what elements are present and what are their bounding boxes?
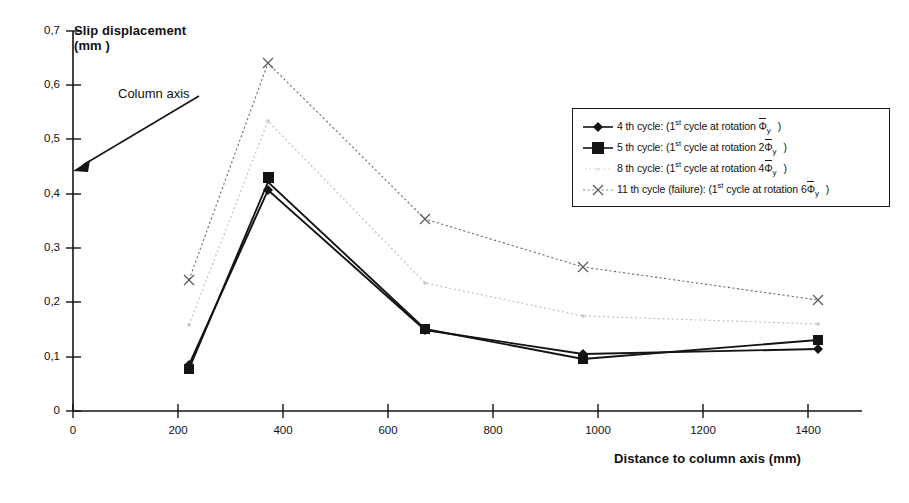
ytick-label-0.4: 0,4: [26, 187, 60, 199]
column-axis-annotation-label: Column axis: [118, 86, 190, 101]
chart-plot-area: [0, 0, 909, 503]
legend-item-11th-cycle[interactable]: 11 th cycle (failure): (1st cycle at rot…: [581, 179, 883, 200]
xtick-label-1000: 1000: [578, 424, 618, 436]
phi-glyph: Φ: [758, 120, 766, 132]
legend-label-11th-cycle: 11 th cycle (failure): (1st cycle at rot…: [617, 181, 829, 198]
xtick-label-600: 600: [368, 424, 408, 436]
ytick-label-0.7: 0,7: [26, 24, 60, 36]
y-axis-title-line2: (mm ): [74, 38, 110, 53]
chart-legend: 4 th cycle: (1st cycle at rotation Φy) 5…: [572, 108, 890, 207]
phi-subscript: y: [772, 168, 776, 177]
ytick-label-0.5: 0,5: [26, 132, 60, 144]
legend-label-main: 11 th cycle (failure): (1: [617, 183, 718, 195]
legend-label-mid: cycle at rotation: [681, 141, 758, 153]
legend-label-mid: cycle at rotation: [723, 183, 800, 195]
xtick-label-800: 800: [473, 424, 513, 436]
xtick-label-1200: 1200: [683, 424, 723, 436]
column-axis-arrow: [73, 96, 199, 172]
xtick-label-400: 400: [263, 424, 303, 436]
xtick-label-1400: 1400: [788, 424, 828, 436]
overbar: [759, 118, 766, 119]
legend-label-4th-cycle: 4 th cycle: (1st cycle at rotation Φy): [617, 118, 781, 135]
ytick-label-0: 0: [26, 404, 60, 416]
overbar: [807, 181, 814, 182]
legend-key-diamond-icon: [581, 119, 615, 135]
phi-subscript: y: [767, 126, 771, 135]
ytick-label-0.1: 0,1: [26, 350, 60, 362]
legend-phi-symbol: Φy: [764, 162, 783, 177]
legend-label-end: ): [826, 183, 829, 195]
legend-item-8th-cycle[interactable]: 8 th cycle: (1st cycle at rotation 4Φy): [581, 158, 883, 179]
ytick-label-0.3: 0,3: [26, 241, 60, 253]
legend-label-end: ): [783, 141, 786, 153]
legend-label-main: 5 th cycle: (1: [617, 141, 675, 153]
x-axis-title: Distance to column axis (mm): [614, 452, 801, 467]
legend-label-end: ): [778, 120, 781, 132]
legend-label-mid: cycle at rotation: [681, 120, 758, 132]
legend-phi-symbol: Φy: [758, 120, 777, 135]
legend-label-main: 4 th cycle: (1: [617, 120, 675, 132]
legend-item-4th-cycle[interactable]: 4 th cycle: (1st cycle at rotation Φy): [581, 116, 883, 137]
series-4th-cycle: [184, 185, 823, 370]
legend-label-main: 8 th cycle: (1: [617, 162, 675, 174]
xtick-label-0: 0: [53, 424, 93, 436]
chart-figure: 0,7 0,6 0,5 0,4 0,3 0,2 0,1 0 0 200 400 …: [0, 0, 909, 503]
legend-item-5th-cycle[interactable]: 5 th cycle: (1st cycle at rotation 2Φy): [581, 137, 883, 158]
y-axis-title: Slip displacement(mm ): [74, 24, 186, 54]
y-axis-title-line1: Slip displacement: [74, 23, 186, 38]
phi-subscript: y: [772, 147, 776, 156]
overbar: [765, 160, 772, 161]
legend-phi-symbol: Φy: [807, 183, 826, 198]
legend-label-8th-cycle: 8 th cycle: (1st cycle at rotation 4Φy): [617, 160, 787, 177]
ytick-label-0.2: 0,2: [26, 295, 60, 307]
overbar: [765, 139, 772, 140]
xtick-label-200: 200: [158, 424, 198, 436]
legend-key-faint-dotted-icon: [581, 161, 615, 177]
phi-subscript: y: [815, 189, 819, 198]
legend-phi-symbol: Φy: [764, 141, 783, 156]
legend-key-x-marker-icon: [581, 182, 615, 198]
ytick-label-0.6: 0,6: [26, 78, 60, 90]
axes: [73, 31, 862, 411]
legend-key-square-icon: [581, 140, 615, 156]
legend-label-end: ): [783, 162, 786, 174]
phi-glyph: Φ: [807, 183, 815, 195]
legend-label-5th-cycle: 5 th cycle: (1st cycle at rotation 2Φy): [617, 139, 787, 156]
legend-label-mid: cycle at rotation: [681, 162, 758, 174]
